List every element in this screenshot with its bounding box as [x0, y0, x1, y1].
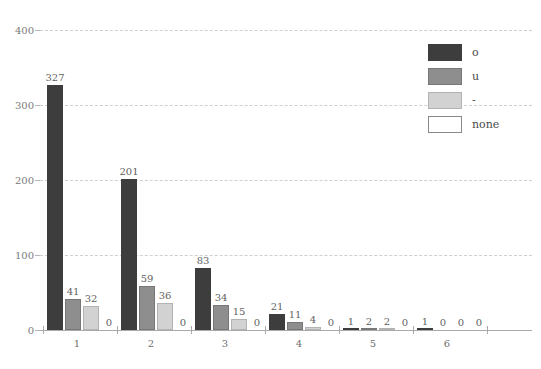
y-tick-label: 300 — [0, 100, 34, 111]
bar[interactable] — [157, 303, 173, 330]
bar-group: 211140 — [262, 30, 336, 330]
bar-value-label: 41 — [67, 287, 80, 297]
legend-swatch — [428, 92, 462, 109]
bar-group: 1220 — [336, 30, 410, 330]
bar-slot: 1 — [343, 30, 359, 330]
bar[interactable] — [121, 179, 137, 330]
bar[interactable] — [287, 322, 303, 330]
bar[interactable] — [343, 328, 359, 330]
bar-value-label: 0 — [440, 318, 446, 328]
bar-slot: 2 — [361, 30, 377, 330]
y-tick-label: 100 — [0, 250, 34, 261]
x-tick-label: 4 — [296, 338, 302, 349]
bar-value-label: 0 — [254, 318, 260, 328]
bar-value-label: 2 — [384, 317, 390, 327]
bar-slot: 4 — [305, 30, 321, 330]
bar-value-label: 0 — [476, 318, 482, 328]
bar-value-label: 11 — [289, 310, 302, 320]
legend-item-o[interactable]: o — [428, 40, 532, 64]
bar-value-label: 1 — [348, 317, 354, 327]
bar-value-label: 15 — [233, 307, 246, 317]
bar-group: 8334150 — [188, 30, 262, 330]
bar-slot: 15 — [231, 30, 247, 330]
legend-item-u[interactable]: u — [428, 64, 532, 88]
bar[interactable] — [83, 306, 99, 330]
bar-slot: 41 — [65, 30, 81, 330]
bar-value-label: 4 — [310, 315, 316, 325]
chart-legend: ou-none — [428, 40, 532, 136]
legend-swatch — [428, 68, 462, 85]
legend-item-dash[interactable]: - — [428, 88, 532, 112]
bar-value-label: 201 — [119, 167, 138, 177]
y-tick-label: 400 — [0, 25, 34, 36]
bar-group: 32741320 — [40, 30, 114, 330]
bar[interactable] — [65, 299, 81, 330]
x-axis-line — [40, 330, 532, 331]
bar-slot: 36 — [157, 30, 173, 330]
bar[interactable] — [305, 327, 321, 330]
bar-value-label: 2 — [366, 317, 372, 327]
bar-value-label: 32 — [85, 294, 98, 304]
y-tick-label: 0 — [0, 325, 34, 336]
bar-slot: 34 — [213, 30, 229, 330]
bar[interactable] — [417, 328, 433, 330]
bar-value-label: 0 — [328, 318, 334, 328]
legend-swatch — [428, 44, 462, 61]
bar-slot: 327 — [47, 30, 63, 330]
bar-slot: 83 — [195, 30, 211, 330]
x-tick-label: 6 — [444, 338, 450, 349]
legend-label: - — [472, 94, 476, 107]
bar-value-label: 59 — [141, 274, 154, 284]
x-tick-label: 3 — [222, 338, 228, 349]
bar[interactable] — [379, 328, 395, 330]
legend-item-none[interactable]: none — [428, 112, 532, 136]
bar-value-label: 0 — [106, 318, 112, 328]
bar[interactable] — [213, 305, 229, 331]
bar-value-label: 0 — [402, 318, 408, 328]
bar-value-label: 1 — [422, 317, 428, 327]
bar-slot: 2 — [379, 30, 395, 330]
bar-slot: 11 — [287, 30, 303, 330]
bar-slot: 201 — [121, 30, 137, 330]
bar-slot: 59 — [139, 30, 155, 330]
legend-label: o — [472, 46, 479, 59]
bar-value-label: 21 — [271, 302, 284, 312]
x-axis-end-tick — [487, 326, 488, 334]
bar-value-label: 0 — [458, 318, 464, 328]
bar[interactable] — [47, 85, 63, 330]
y-tick-label: 200 — [0, 175, 34, 186]
legend-label: none — [472, 118, 499, 131]
bar-slot: 21 — [269, 30, 285, 330]
bar-slot: 32 — [83, 30, 99, 330]
bar[interactable] — [361, 328, 377, 330]
legend-label: u — [472, 70, 479, 83]
bar-value-label: 0 — [180, 318, 186, 328]
x-tick-label: 5 — [370, 338, 376, 349]
bar[interactable] — [139, 286, 155, 330]
legend-swatch — [428, 116, 462, 133]
bar-value-label: 34 — [215, 293, 228, 303]
bar-chart: 0100200300400 32741320201593608334150211… — [0, 0, 541, 369]
bar-group: 20159360 — [114, 30, 188, 330]
bar-value-label: 83 — [197, 256, 210, 266]
bar-value-label: 327 — [45, 73, 64, 83]
x-tick-label: 1 — [74, 338, 80, 349]
bar-value-label: 36 — [159, 291, 172, 301]
x-tick-label: 2 — [148, 338, 154, 349]
bar[interactable] — [231, 319, 247, 330]
bar[interactable] — [269, 314, 285, 330]
bar[interactable] — [195, 268, 211, 330]
